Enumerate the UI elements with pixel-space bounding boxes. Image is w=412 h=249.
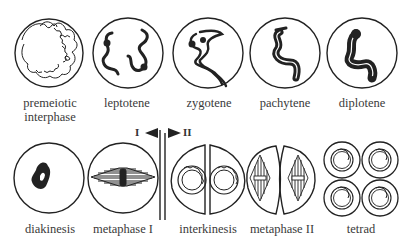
cell-diplotene [327,18,397,88]
division-arrows [145,128,181,138]
zygotene-chromosomes [191,31,226,86]
pachytene-bivalent [276,28,297,78]
label-metaphase-i: metaphase I [93,222,153,236]
cell-leptotene [93,18,163,88]
metaphase-i-spindle [91,168,155,186]
label-interphase: interphase [24,110,75,124]
label-diplotene: diplotene [339,96,386,110]
label-division-ii: II [183,126,192,138]
arrow-left-icon [145,128,158,138]
tetrad-cells [324,142,398,216]
meiosis-diagram [0,0,412,249]
label-pachytene: pachytene [260,96,311,110]
label-premeiotic: premeiotic [23,96,76,110]
label-interkinesis: interkinesis [179,222,237,236]
diplotene-bivalent [349,29,375,82]
diakinesis-bivalent [31,163,50,189]
label-tetrad: tetrad [347,222,375,236]
label-metaphase-ii: metaphase II [250,222,314,236]
label-leptotene: leptotene [104,96,150,110]
division-divider [160,130,165,220]
label-zygotene: zygotene [186,96,231,110]
arrow-right-icon [168,128,181,138]
label-diakinesis: diakinesis [25,222,75,236]
chromatin-tangle [22,22,77,78]
interkinesis-nuclei [178,166,238,194]
label-division-i: I [135,126,139,138]
